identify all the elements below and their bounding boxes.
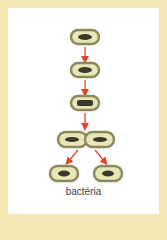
bacterium-2 (71, 63, 99, 77)
daughter-cell-left (50, 166, 78, 181)
dividing-bacterium (58, 132, 114, 147)
diagram-label: bactéria (0, 186, 167, 197)
bacterium-3 (71, 96, 99, 110)
daughter-cell-right (94, 166, 122, 181)
arrow-icon (68, 150, 78, 162)
arrow-icon (95, 150, 105, 162)
bacterium-1 (71, 30, 99, 44)
